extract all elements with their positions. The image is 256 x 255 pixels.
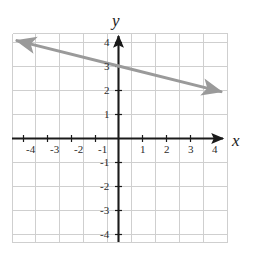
y-tick-label-4: 4 [104, 37, 110, 48]
x-tick-label-neg4: -4 [26, 144, 35, 155]
x-axis-label: x [232, 132, 240, 149]
x-tick-label-1: 1 [140, 144, 146, 155]
y-tick-label-neg4: -4 [100, 229, 109, 240]
y-axis-label: y [112, 12, 120, 29]
y-tick-label-1: 1 [104, 109, 110, 120]
x-tick-label-4: 4 [212, 144, 218, 155]
y-tick-label-neg1: -1 [100, 157, 109, 168]
y-tick-label-2: 2 [104, 85, 110, 96]
x-tick-label-neg3: -3 [50, 144, 59, 155]
x-tick-label-neg2: -2 [74, 144, 83, 155]
x-tick-label-2: 2 [164, 144, 170, 155]
y-tick-label-3: 3 [104, 61, 110, 72]
line-segment-right [119, 66, 222, 92]
x-tick-label-neg1: -1 [98, 144, 107, 155]
x-tick-label-3: 3 [188, 144, 194, 155]
coordinate-plane-figure: y x -4 -3 -2 -1 1 2 3 4 4 3 2 1 -1 -2 -3… [0, 0, 256, 255]
y-tick-label-neg2: -2 [100, 181, 109, 192]
graph-canvas [0, 0, 256, 255]
y-tick-label-neg3: -3 [100, 205, 109, 216]
